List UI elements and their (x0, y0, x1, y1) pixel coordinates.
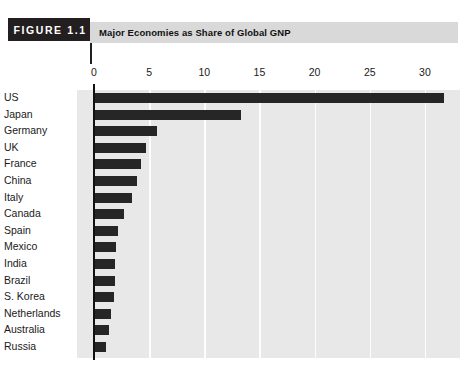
x-axis-tick-labels: 051015202530 (0, 66, 471, 86)
y-axis-line (93, 84, 95, 360)
y-axis-category-label: Germany (4, 125, 68, 136)
x-axis-tick-label: 15 (254, 66, 266, 78)
y-axis-category-label: Canada (4, 208, 68, 219)
y-axis-category-label: Japan (4, 109, 68, 120)
figure-title: Major Economies as Share of Global GNP (90, 27, 291, 38)
x-axis-tick-label: 20 (309, 66, 321, 78)
bar (94, 110, 241, 120)
bar (94, 126, 157, 136)
bar (94, 176, 137, 186)
y-axis-category-label: India (4, 258, 68, 269)
bar (94, 325, 109, 335)
x-axis-tick-label: 25 (364, 66, 376, 78)
bar-series (77, 90, 460, 358)
x-axis-tick-label: 5 (146, 66, 152, 78)
bar (94, 209, 124, 219)
bar (94, 193, 132, 203)
x-axis-tick-label: 10 (198, 66, 210, 78)
chart-area: 051015202530 USJapanGermanyUKFranceChina… (0, 58, 471, 380)
figure-header: FIGURE 1.1 Major Economies as Share of G… (0, 18, 471, 46)
y-axis-category-labels: USJapanGermanyUKFranceChinaItalyCanadaSp… (0, 90, 77, 358)
x-axis-tick-label: 30 (419, 66, 431, 78)
y-axis-category-label: France (4, 158, 68, 169)
bar (94, 342, 106, 352)
bar (94, 276, 115, 286)
bar (94, 159, 141, 169)
bar (94, 93, 444, 103)
bar (94, 309, 111, 319)
bar (94, 143, 146, 153)
x-axis-tick-label: 0 (91, 66, 97, 78)
y-axis-category-label: Mexico (4, 241, 68, 252)
bar (94, 242, 116, 252)
y-axis-category-label: Spain (4, 225, 68, 236)
y-axis-category-label: UK (4, 142, 68, 153)
bar (94, 226, 118, 236)
bar (94, 292, 114, 302)
y-axis-category-label: US (4, 92, 68, 103)
y-axis-category-label: China (4, 175, 68, 186)
y-axis-category-label: Italy (4, 192, 68, 203)
y-axis-category-label: S. Korea (4, 291, 68, 302)
figure-title-bar: Major Economies as Share of Global GNP (90, 22, 458, 43)
y-axis-category-label: Russia (4, 341, 68, 352)
y-axis-category-label: Brazil (4, 275, 68, 286)
bar (94, 259, 115, 269)
y-axis-category-label: Australia (4, 324, 68, 335)
y-axis-category-label: Netherlands (4, 308, 68, 319)
plot-area (77, 90, 460, 358)
figure-number-badge: FIGURE 1.1 (8, 18, 90, 41)
